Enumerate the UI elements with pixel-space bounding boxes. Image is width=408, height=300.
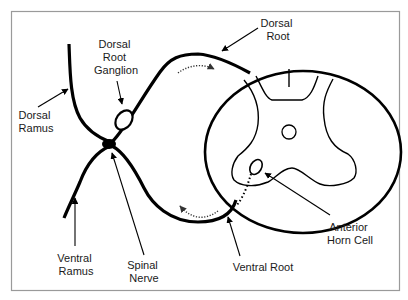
label-dorsal-root: Dorsal Root [261,17,296,42]
label-ventral-ramus: Ventral Ramus [57,252,94,277]
dorsal-ramus-pointer [38,89,68,107]
label-ventral-root: Ventral Root [233,261,294,273]
efferent-direction-arrow [180,206,218,217]
label-anterior-horn-cell: Anterior Horn Cell [327,221,373,246]
spinal-nerve-junction [102,139,116,149]
afferent-direction-arrow [178,66,214,73]
label-dorsal-root-ganglion: Dorsal Root Ganglion [94,38,138,76]
dorsal-root-ganglion [112,107,136,133]
label-spinal-nerve: Spinal Nerve [127,259,161,284]
dorsal-root-pointer [222,28,258,51]
ventral-ramus-nerve [64,146,110,218]
spinal-nerve-diagram: Dorsal Root Dorsal Root Ganglion Dorsal … [0,0,408,300]
label-dorsal-ramus: Dorsal Ramus [19,109,54,134]
ganglion-pointer [117,81,122,104]
spinal-cord-outline [205,71,401,233]
ventral-root-pointer [228,217,240,256]
spinal-nerve-pointer [112,153,144,255]
